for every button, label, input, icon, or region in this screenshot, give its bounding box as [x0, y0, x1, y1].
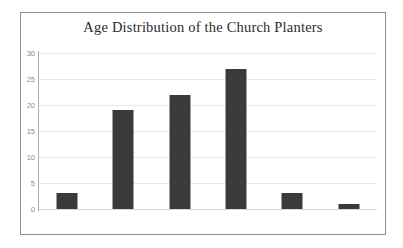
bar-slot	[95, 53, 151, 209]
y-tick-label: 30	[27, 49, 35, 58]
y-tick-label: 0	[31, 205, 35, 214]
y-axis-tick-labels: 051015202530	[21, 53, 35, 209]
plot-area: 20-2930-3940-4950-5960-6970+	[39, 53, 377, 209]
bar[interactable]	[226, 69, 247, 209]
bar-slot	[264, 53, 320, 209]
bar-slot	[152, 53, 208, 209]
chart-title: Age Distribution of the Church Planters	[21, 19, 385, 36]
bar[interactable]	[282, 193, 303, 209]
bar-slot	[321, 53, 377, 209]
y-tick-label: 15	[27, 127, 35, 136]
bar-slot	[208, 53, 264, 209]
bar-slot	[39, 53, 95, 209]
y-tick-label: 25	[27, 75, 35, 84]
bar[interactable]	[57, 193, 78, 209]
chart-frame: Age Distribution of the Church Planters …	[20, 12, 386, 235]
y-tick-label: 10	[27, 153, 35, 162]
bar[interactable]	[113, 110, 134, 209]
gridline	[39, 209, 377, 210]
bar[interactable]	[169, 95, 190, 209]
y-tick-label: 20	[27, 101, 35, 110]
bar[interactable]	[338, 204, 359, 209]
y-tick-label: 5	[31, 179, 35, 188]
